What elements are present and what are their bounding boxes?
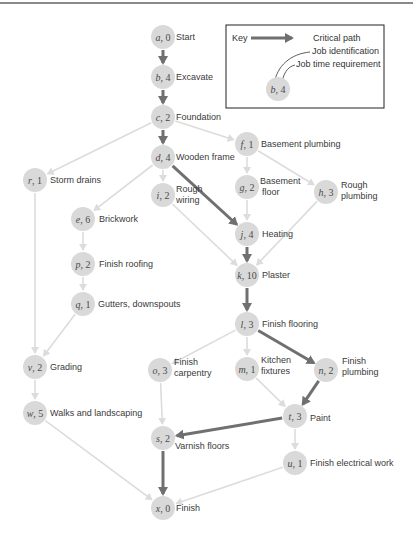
job-node-b: b, 4Excavate — [151, 65, 213, 89]
job-node-c: c, 2Foundation — [151, 105, 221, 129]
node-id-time: r, 1 — [28, 175, 42, 186]
job-node-j: j, 4Heating — [235, 222, 293, 246]
critical-arrow-t-s — [177, 418, 282, 436]
arrow-c-f — [175, 121, 233, 140]
job-node-t: t, 3Paint — [283, 404, 331, 428]
legend-title: Key — [232, 33, 248, 43]
job-label: Basementfloor — [260, 176, 301, 197]
node-id-time: e, 6 — [76, 214, 90, 225]
arrow-m-t — [256, 378, 285, 406]
job-node-g: g, 2Basementfloor — [235, 175, 301, 199]
node-id-time: j, 4 — [239, 229, 254, 240]
node-id-time: x, 0 — [155, 503, 170, 514]
job-node-k: k, 10Plaster — [235, 263, 290, 287]
job-label: Basement plumbing — [261, 139, 341, 149]
job-label: Finish electrical work — [310, 458, 394, 468]
job-node-q: q, 1Gutters, downspouts — [71, 292, 181, 316]
legend-job-time: Job time requirement — [296, 59, 381, 69]
arrow-d-e — [94, 165, 153, 210]
job-label: Excavate — [176, 72, 213, 82]
node-id-time: g, 2 — [240, 182, 255, 193]
job-label: Finish roofing — [99, 259, 153, 269]
node-id-time: a, 0 — [156, 32, 171, 43]
node-id-time: b, 4 — [156, 72, 171, 83]
job-label: Grading — [50, 362, 82, 372]
job-node-f: f, 1Basement plumbing — [235, 132, 341, 156]
node-id-time: k, 10 — [237, 270, 256, 281]
node-id-time: i, 2 — [157, 190, 170, 201]
node-id-time: q, 1 — [76, 299, 91, 310]
arrow-q-v — [44, 314, 76, 356]
job-label: Start — [176, 32, 196, 42]
arrow-o-s — [161, 383, 163, 424]
job-label: Roughwiring — [175, 184, 203, 205]
job-label: Kitchenfixtures — [261, 355, 291, 376]
legend-job-id: Job identification — [312, 46, 379, 56]
job-node-p: p, 2Finish roofing — [71, 252, 153, 276]
job-label: Varnish floors — [175, 441, 230, 451]
job-node-d: d, 4Wooden frame — [151, 145, 235, 169]
job-label: Finishplumbing — [342, 356, 379, 377]
job-label: Wooden frame — [176, 152, 235, 162]
node-id-time: f, 1 — [241, 139, 254, 150]
node-id-time: m, 1 — [238, 364, 255, 375]
node-id-time: v, 2 — [28, 362, 42, 373]
job-node-r: r, 1Storm drains — [23, 168, 102, 192]
arrow-c-r — [48, 123, 152, 174]
legend-sample-text: b, 4 — [271, 84, 286, 95]
node-id-time: w, 5 — [27, 408, 44, 419]
node-id-time: t, 3 — [289, 411, 302, 422]
job-label: Finish flooring — [262, 319, 318, 329]
node-id-time: d, 4 — [156, 152, 171, 163]
job-label: Gutters, downspouts — [98, 299, 181, 309]
job-label: Foundation — [176, 112, 221, 122]
job-node-n: n, 2Finishplumbing — [314, 356, 379, 382]
arrow-u-x — [176, 467, 282, 503]
arrow-w-x — [45, 421, 151, 500]
project-network-diagram: a, 0Startb, 4Excavatec, 2Foundationd, 4W… — [0, 0, 413, 535]
job-node-x: x, 0Finish — [151, 496, 200, 520]
job-label: Plaster — [262, 270, 290, 280]
job-label: Heating — [262, 229, 293, 239]
job-node-o: o, 3Finishcarpentry — [148, 357, 212, 382]
job-label: Storm drains — [50, 175, 102, 185]
job-node-v: v, 2Grading — [23, 355, 82, 379]
job-node-i: i, 2Roughwiring — [151, 183, 203, 207]
job-node-m: m, 1Kitchenfixtures — [235, 355, 291, 381]
job-node-h: h, 3Roughplumbing — [314, 180, 378, 204]
job-node-l: l, 3Finish flooring — [235, 312, 318, 336]
job-label: Walks and landscaping — [50, 408, 142, 418]
node-id-time: p, 2 — [75, 259, 91, 270]
job-label: Finish — [176, 503, 200, 513]
legend-critical-path: Critical path — [313, 33, 361, 43]
node-id-time: h, 3 — [319, 187, 334, 198]
node-id-time: u, 1 — [288, 458, 303, 469]
job-label: Brickwork — [99, 214, 139, 224]
job-label: Roughplumbing — [341, 180, 378, 201]
job-label: Finishcarpentry — [174, 357, 212, 378]
arrow-i-k — [172, 204, 237, 265]
node-id-time: n, 2 — [319, 365, 334, 376]
legend-key: Key Critical path Job identification Job… — [226, 25, 384, 108]
node-id-time: s, 2 — [156, 433, 170, 444]
job-node-u: u, 1Finish electrical work — [283, 451, 394, 475]
job-node-a: a, 0Start — [151, 25, 196, 49]
node-id-time: o, 3 — [153, 365, 168, 376]
job-node-w: w, 5Walks and landscaping — [23, 401, 142, 425]
node-id-time: c, 2 — [156, 112, 170, 123]
job-label: Paint — [310, 413, 331, 423]
critical-arrow-n-t — [303, 381, 319, 405]
node-id-time: l, 3 — [241, 319, 254, 330]
job-node-e: e, 6Brickwork — [71, 207, 139, 231]
